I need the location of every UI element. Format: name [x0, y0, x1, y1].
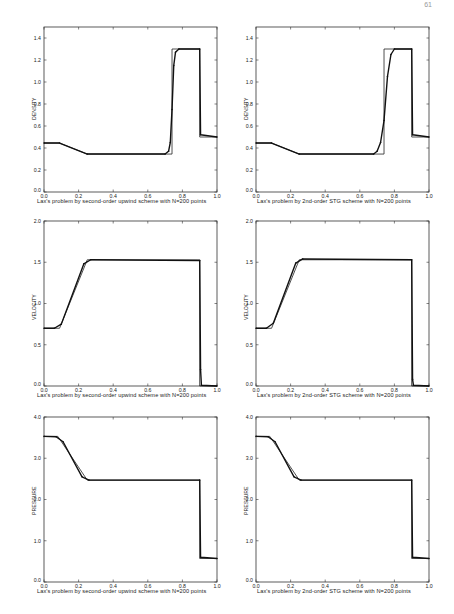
svg-text:1.0: 1.0 — [425, 193, 432, 199]
chart-plot-area: 0.00.20.40.60.81.00.00.51.01.52.0 — [256, 221, 429, 386]
svg-text:3.0: 3.0 — [34, 455, 41, 461]
svg-text:1.4: 1.4 — [34, 35, 41, 41]
chart-plot-area: 0.00.20.40.60.81.00.00.51.01.52.0 — [44, 221, 217, 386]
svg-text:0.0: 0.0 — [34, 577, 41, 583]
figure-density-upwind: 0.00.20.40.60.81.00.00.20.40.60.81.01.21… — [44, 27, 217, 192]
svg-text:0.0: 0.0 — [246, 187, 253, 193]
svg-text:3.0: 3.0 — [246, 455, 253, 461]
svg-text:0.0: 0.0 — [246, 381, 253, 387]
figure-caption: Lax's problem by second-order upwind sch… — [37, 588, 206, 594]
svg-text:1.5: 1.5 — [34, 259, 41, 265]
figure-velocity-upwind: 0.00.20.40.60.81.00.00.51.01.52.0 — [44, 221, 217, 386]
svg-text:2.0: 2.0 — [34, 218, 41, 224]
svg-text:0.2: 0.2 — [34, 167, 41, 173]
chart-plot-area: 0.00.20.40.60.81.00.01.02.03.04.0 — [44, 417, 217, 582]
y-axis-label: DENSITY — [31, 98, 37, 120]
svg-text:0.6: 0.6 — [246, 123, 253, 129]
svg-text:1.0: 1.0 — [213, 193, 220, 199]
y-axis-label: VELOCITY — [31, 294, 37, 320]
svg-text:1.0: 1.0 — [425, 583, 432, 589]
figure-velocity-stg: 0.00.20.40.60.81.00.00.51.01.52.0 — [256, 221, 429, 386]
svg-text:0.4: 0.4 — [246, 145, 253, 151]
chart-plot-area: 0.00.20.40.60.81.00.00.20.40.60.81.01.21… — [256, 27, 429, 192]
y-axis-label: DENSITY — [243, 98, 249, 120]
figure-caption: Lax's problem by second-order upwind sch… — [37, 198, 206, 204]
page-number: 61 — [424, 1, 432, 8]
svg-text:0.4: 0.4 — [34, 145, 41, 151]
svg-text:0.5: 0.5 — [246, 342, 253, 348]
figure-caption: Lax's problem by 2nd-order STG scheme wi… — [257, 392, 411, 398]
svg-text:1.0: 1.0 — [34, 538, 41, 544]
svg-text:1.0: 1.0 — [425, 387, 432, 393]
svg-text:1.5: 1.5 — [246, 259, 253, 265]
chart-plot-area: 0.00.20.40.60.81.00.00.20.40.60.81.01.21… — [44, 27, 217, 192]
figure-pressure-upwind: 0.00.20.40.60.81.00.01.02.03.04.0 — [44, 417, 217, 582]
svg-text:1.0: 1.0 — [246, 538, 253, 544]
svg-text:2.0: 2.0 — [246, 218, 253, 224]
figure-caption: Lax's problem by 2nd-order STG scheme wi… — [257, 588, 411, 594]
y-axis-label: PRESSURE — [243, 486, 249, 515]
svg-text:0.0: 0.0 — [34, 187, 41, 193]
svg-text:4.0: 4.0 — [246, 414, 253, 420]
figure-caption: Lax's problem by second-order upwind sch… — [37, 392, 206, 398]
svg-text:0.5: 0.5 — [34, 342, 41, 348]
svg-text:1.0: 1.0 — [246, 79, 253, 85]
y-axis-label: VELOCITY — [243, 294, 249, 320]
figure-caption: Lax's problem by 2nd-order STG scheme wi… — [257, 198, 411, 204]
svg-text:1.0: 1.0 — [213, 583, 220, 589]
figure-pressure-stg: 0.00.20.40.60.81.00.01.02.03.04.0 — [256, 417, 429, 582]
figure-density-stg: 0.00.20.40.60.81.00.00.20.40.60.81.01.21… — [256, 27, 429, 192]
svg-text:1.2: 1.2 — [246, 57, 253, 63]
svg-text:1.4: 1.4 — [246, 35, 253, 41]
svg-text:1.0: 1.0 — [213, 387, 220, 393]
y-axis-label: PRESSURE — [31, 486, 37, 515]
svg-text:0.0: 0.0 — [246, 577, 253, 583]
svg-text:0.6: 0.6 — [34, 123, 41, 129]
svg-text:0.0: 0.0 — [34, 381, 41, 387]
svg-text:1.0: 1.0 — [34, 79, 41, 85]
svg-text:0.2: 0.2 — [246, 167, 253, 173]
svg-text:1.2: 1.2 — [34, 57, 41, 63]
svg-text:4.0: 4.0 — [34, 414, 41, 420]
chart-plot-area: 0.00.20.40.60.81.00.01.02.03.04.0 — [256, 417, 429, 582]
